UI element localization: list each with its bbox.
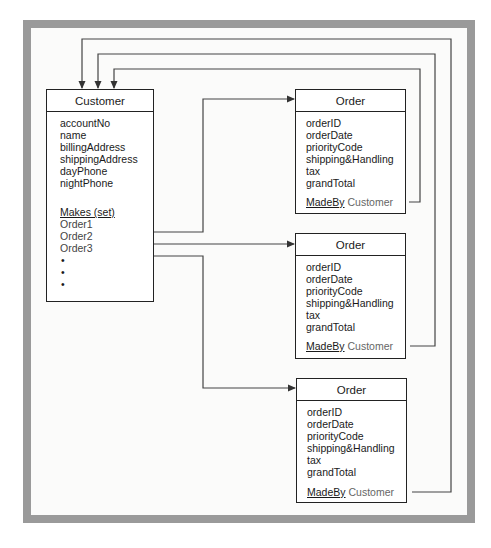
- relation-name: MadeBy: [306, 340, 345, 352]
- order-attributes: orderID orderDate priorityCode shipping&…: [297, 401, 406, 478]
- set-member-order3: Order3: [60, 242, 153, 254]
- attribute: tax: [307, 454, 406, 466]
- attribute: grandTotal: [307, 466, 406, 478]
- attribute: tax: [306, 309, 405, 321]
- attribute: orderID: [306, 261, 405, 273]
- madeby-relation: MadeBy Customer: [306, 340, 393, 352]
- attribute: grandTotal: [306, 321, 405, 333]
- attribute: orderDate: [306, 273, 405, 285]
- attribute: tax: [306, 165, 405, 177]
- madeby-relation: MadeBy Customer: [306, 196, 393, 208]
- attribute: billingAddress: [60, 141, 153, 153]
- attribute: accountNo: [60, 117, 153, 129]
- attribute: shipping&Handling: [306, 153, 405, 165]
- attribute: priorityCode: [306, 285, 405, 297]
- customer-entity: Customer accountNo name billingAddress s…: [46, 89, 154, 302]
- order-attributes: orderID orderDate priorityCode shipping&…: [296, 112, 405, 189]
- attribute: dayPhone: [60, 165, 153, 177]
- order-title: Order: [297, 379, 406, 401]
- order-title: Order: [296, 234, 405, 256]
- attribute: priorityCode: [307, 430, 406, 442]
- order-title: Order: [296, 90, 405, 112]
- relation-target: Customer: [347, 340, 393, 352]
- attribute: orderID: [307, 406, 406, 418]
- set-member-order2: Order2: [60, 230, 153, 242]
- madeby-relation: MadeBy Customer: [307, 486, 394, 498]
- attribute: grandTotal: [306, 177, 405, 189]
- order-entity-3: Order orderID orderDate priorityCode shi…: [296, 378, 407, 503]
- attribute: orderDate: [307, 418, 406, 430]
- attribute: shipping&Handling: [307, 442, 406, 454]
- order-entity-2: Order orderID orderDate priorityCode shi…: [295, 233, 406, 359]
- attribute: nightPhone: [60, 177, 153, 189]
- attribute: priorityCode: [306, 141, 405, 153]
- ellipsis-dot: •: [60, 254, 153, 266]
- relation-name: MadeBy: [307, 486, 346, 498]
- relation-target: Customer: [347, 196, 393, 208]
- customer-attributes: accountNo name billingAddress shippingAd…: [47, 112, 153, 290]
- ellipsis-dot: •: [60, 266, 153, 278]
- attribute: shipping&Handling: [306, 297, 405, 309]
- customer-title: Customer: [47, 90, 153, 112]
- ellipsis-dot: •: [60, 278, 153, 290]
- makes-set-label: Makes (set): [60, 206, 153, 218]
- relation-name: MadeBy: [306, 196, 345, 208]
- order-attributes: orderID orderDate priorityCode shipping&…: [296, 256, 405, 333]
- attribute: orderID: [306, 117, 405, 129]
- attribute: shippingAddress: [60, 153, 153, 165]
- order-entity-1: Order orderID orderDate priorityCode shi…: [295, 89, 406, 214]
- set-member-order1: Order1: [60, 218, 153, 230]
- relation-target: Customer: [348, 486, 394, 498]
- attribute: orderDate: [306, 129, 405, 141]
- attribute: name: [60, 129, 153, 141]
